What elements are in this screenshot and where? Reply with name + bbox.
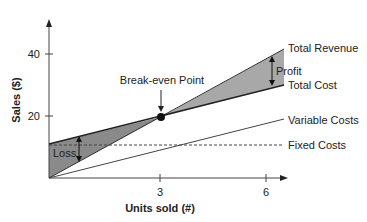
y-axis-arrow-icon <box>46 19 52 27</box>
x-tick-label-6: 6 <box>263 186 269 198</box>
x-tick-label-3: 3 <box>157 186 163 198</box>
total-revenue-label: Total Revenue <box>288 42 358 54</box>
profit-label: Profit <box>276 65 302 77</box>
y-tick-label-20: 20 <box>28 110 40 122</box>
x-axis-arrow-icon <box>280 175 288 181</box>
y-axis-title: Sales ($) <box>10 77 22 123</box>
fixed-costs-label: Fixed Costs <box>288 139 347 151</box>
total-revenue-line <box>49 49 284 178</box>
variable-costs-label: Variable Costs <box>288 114 359 126</box>
break-even-arrow-icon <box>158 106 164 112</box>
break-even-chart: 40 20 3 6 Break-even Point Loss Profit T… <box>0 0 367 222</box>
x-axis-title: Units sold (#) <box>125 202 195 214</box>
total-cost-line <box>49 85 284 144</box>
break-even-label: Break-even Point <box>120 74 204 86</box>
break-even-dot <box>157 113 165 121</box>
y-tick-label-40: 40 <box>28 48 40 60</box>
loss-label: Loss <box>53 147 77 159</box>
total-cost-label: Total Cost <box>288 79 337 91</box>
